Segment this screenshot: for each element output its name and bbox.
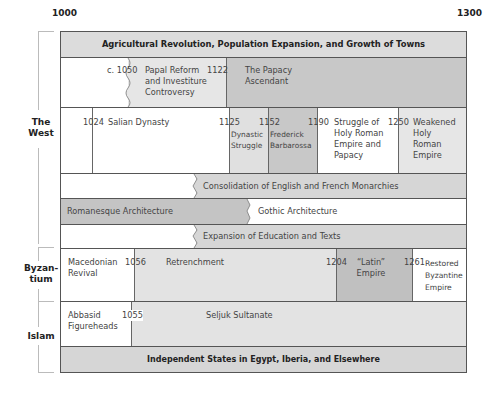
label-line: Frederick (270, 129, 312, 140)
label-abbasid: Abbasid Figureheads (68, 310, 118, 332)
label-line: Revival (68, 268, 118, 279)
label-line: Barbarossa (270, 140, 312, 151)
label-line: Restored (425, 258, 463, 270)
chevron-edge-icon (191, 225, 199, 248)
band-agricultural-label: Agricultural Revolution, Population Expa… (61, 39, 466, 50)
label-line: Dynastic (231, 129, 263, 140)
islam-bracket-bottom (38, 345, 39, 372)
label-struggle-hre-papacy: Struggle of Holy Roman Empire and Papacy (334, 117, 383, 161)
label-line: Weakened (413, 117, 456, 128)
islam-bracket-top (38, 301, 39, 327)
label-papal-reform: Papal Reform and Investiture Controversy (145, 65, 207, 98)
label-line: Holy Roman (334, 128, 383, 139)
label-retrenchment: Retrenchment (166, 257, 224, 268)
label-macedonian-revival: Macedonian Revival (68, 257, 118, 279)
year-1122: 1122 (207, 65, 228, 76)
label-gothic: Gothic Architecture (258, 206, 337, 217)
label-line: Empire and (334, 139, 383, 150)
group-west-line2: West (26, 128, 56, 139)
label-consolidation: Consolidation of English and French Mona… (203, 181, 398, 192)
byz-bracket-bottom (38, 289, 39, 301)
label-line: Empire (413, 150, 456, 161)
byz-bracket-top (38, 247, 39, 261)
label-papacy-ascendant: The Papacy Ascendant (245, 65, 292, 87)
label-line: Ascendant (245, 76, 292, 87)
label-line: Empire (351, 268, 391, 279)
axis-start-year: 1000 (52, 8, 77, 18)
west-bracket-bottom (38, 148, 39, 244)
group-byz-line1: Byzan- (24, 263, 58, 274)
year-1250: 1250 (388, 117, 409, 128)
label-line: Empire (425, 282, 463, 294)
label-seljuk: Seljuk Sultanate (206, 310, 273, 321)
group-label-islam: Islam (24, 331, 58, 342)
group-byz-line2: tium (24, 274, 58, 285)
label-line: and Investiture (145, 76, 207, 87)
bracket-tick (38, 247, 54, 248)
year-1125: 1125 (219, 117, 240, 128)
label-restored-byzantine: Restored Byzantine Empire (425, 258, 463, 294)
label-education: Expansion of Education and Texts (203, 231, 340, 242)
group-label-west: The West (26, 117, 56, 139)
axis-end-year: 1300 (457, 8, 482, 18)
year-1056: 1056 (125, 257, 146, 268)
year-1055: 1055 (122, 310, 143, 321)
label-romanesque: Romanesque Architecture (67, 206, 173, 217)
label-line: Byzantine (425, 270, 463, 282)
west-bracket-top (38, 31, 39, 110)
bracket-tick (38, 31, 54, 32)
label-dynastic-struggle: Dynastic Struggle (231, 129, 263, 151)
label-line: Roman (413, 139, 456, 150)
band-seljuk (131, 302, 466, 346)
label-line: Struggle of (334, 117, 383, 128)
year-1190: 1190 (308, 117, 329, 128)
label-line: Papal Reform (145, 65, 207, 76)
label-latin-empire: “Latin” Empire (351, 257, 391, 279)
label-frederick-barbarossa: Frederick Barbarossa (270, 129, 312, 151)
bracket-tick (38, 372, 54, 373)
group-label-byzantium: Byzan- tium (24, 263, 58, 285)
label-weakened-hre: Weakened Holy Roman Empire (413, 117, 456, 161)
label-line: Figureheads (68, 321, 118, 332)
year-1024: 1024 (83, 117, 104, 128)
bracket-tick (38, 301, 54, 302)
label-line: “Latin” (351, 257, 391, 268)
label-line: The Papacy (245, 65, 292, 76)
label-independent: Independent States in Egypt, Iberia, and… (61, 354, 466, 365)
year-1204: 1204 (326, 257, 347, 268)
year-1261: 1261 (404, 257, 425, 268)
band-retrenchment (134, 249, 336, 301)
chevron-edge-icon (191, 174, 199, 198)
label-line: Papacy (334, 150, 383, 161)
year-1152: 1152 (259, 117, 280, 128)
label-line: Abbasid (68, 310, 118, 321)
label-line: Macedonian (68, 257, 118, 268)
group-west-line1: The (26, 117, 56, 128)
chevron-edge-icon (244, 199, 252, 224)
label-line: Struggle (231, 140, 263, 151)
label-salian-dynasty: Salian Dynasty (108, 117, 169, 128)
year-c1050: c. 1050 (107, 65, 138, 76)
label-line: Holy (413, 128, 456, 139)
label-line: Controversy (145, 87, 207, 98)
